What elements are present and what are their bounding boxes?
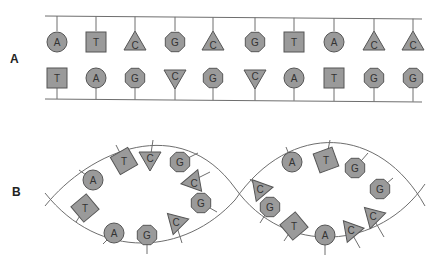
svg-text:T: T	[331, 73, 337, 84]
svg-text:T: T	[291, 221, 297, 232]
svg-text:T: T	[291, 37, 297, 48]
svg-text:G: G	[143, 230, 151, 241]
adenine-base-icon: A	[104, 223, 124, 243]
svg-text:G: G	[266, 202, 274, 213]
thymine-base-icon: T	[313, 147, 339, 173]
svg-text:A: A	[111, 228, 118, 239]
svg-text:C: C	[347, 225, 354, 236]
svg-text:C: C	[146, 153, 153, 164]
guanine-base-icon: G	[203, 68, 222, 87]
svg-text:A: A	[90, 175, 97, 186]
svg-text:T: T	[323, 155, 329, 166]
svg-text:T: T	[54, 73, 60, 84]
svg-text:C: C	[190, 178, 197, 189]
svg-text:C: C	[251, 71, 258, 82]
guanine-base-icon: G	[345, 158, 364, 177]
svg-text:C: C	[131, 40, 138, 51]
guanine-base-icon: G	[125, 68, 144, 87]
thymine-base-icon: T	[47, 68, 67, 88]
svg-text:G: G	[197, 198, 205, 209]
cytosine-base-icon: C	[139, 152, 161, 171]
panel-b-strand-2	[45, 143, 425, 243]
adenine-base-icon: A	[83, 170, 103, 190]
svg-text:A: A	[289, 157, 296, 168]
svg-text:G: G	[409, 73, 417, 84]
cytosine-base-icon: C	[164, 70, 186, 89]
svg-text:A: A	[331, 37, 338, 48]
guanine-base-icon: G	[364, 68, 383, 87]
cytosine-base-icon: C	[244, 70, 266, 89]
guanine-base-icon: G	[165, 32, 184, 51]
cytosine-base-icon: C	[202, 31, 224, 51]
cytosine-base-icon: C	[363, 31, 385, 51]
panel-b: ATTCGCGAGCATGGCGTACC	[45, 140, 425, 255]
svg-text:G: G	[209, 73, 217, 84]
svg-text:G: G	[131, 73, 139, 84]
guanine-base-icon: G	[191, 193, 210, 212]
svg-text:A: A	[322, 230, 329, 241]
svg-text:T: T	[93, 37, 99, 48]
thymine-base-icon: T	[71, 194, 99, 222]
svg-text:C: C	[209, 40, 216, 51]
adenine-base-icon: A	[324, 32, 344, 52]
svg-text:G: G	[251, 37, 259, 48]
guanine-base-icon: G	[403, 68, 422, 87]
svg-text:G: G	[376, 184, 384, 195]
svg-text:G: G	[370, 73, 378, 84]
thymine-base-icon: T	[324, 68, 344, 88]
guanine-base-icon: G	[245, 32, 264, 51]
panel-a-top-backbone	[45, 16, 422, 19]
thymine-base-icon: T	[280, 212, 308, 240]
svg-text:C: C	[172, 217, 179, 228]
panel-b-bases: ATTCGCGAGCATGGCGTACC	[71, 140, 393, 255]
thymine-base-icon: T	[110, 147, 137, 174]
adenine-base-icon: A	[315, 225, 335, 245]
panel-b-strand-1	[45, 145, 425, 237]
panel-a-bottom-backbone	[45, 99, 422, 102]
svg-text:A: A	[291, 73, 298, 84]
svg-text:G: G	[171, 37, 179, 48]
svg-text:C: C	[256, 184, 263, 195]
guanine-base-icon: G	[137, 225, 156, 244]
guanine-base-icon: G	[370, 179, 389, 198]
svg-text:G: G	[176, 157, 184, 168]
svg-text:C: C	[409, 40, 416, 51]
adenine-base-icon: A	[47, 32, 67, 52]
svg-text:G: G	[351, 163, 359, 174]
guanine-base-icon: G	[170, 152, 189, 171]
adenine-base-icon: A	[282, 152, 302, 172]
panel-a: ATCGCGTACCTAGCGCATGG	[45, 16, 424, 102]
cytosine-base-icon: C	[402, 31, 424, 51]
svg-text:T: T	[82, 203, 88, 214]
svg-text:C: C	[171, 71, 178, 82]
svg-text:C: C	[369, 211, 376, 222]
svg-text:A: A	[54, 37, 61, 48]
dna-diagram: ATCGCGTACCTAGCGCATGG ATTCGCGAGCATGGCGTAC…	[0, 0, 437, 264]
svg-text:C: C	[370, 40, 377, 51]
thymine-base-icon: T	[284, 32, 304, 52]
cytosine-base-icon: C	[337, 220, 364, 246]
guanine-base-icon: G	[260, 197, 279, 216]
cytosine-base-icon: C	[124, 31, 146, 51]
thymine-base-icon: T	[86, 32, 106, 52]
adenine-base-icon: A	[86, 68, 106, 88]
cytosine-base-icon: C	[163, 213, 189, 237]
svg-text:T: T	[121, 156, 127, 167]
svg-text:A: A	[93, 73, 100, 84]
panel-a-bases: ATCGCGTACCTAGCGCATGG	[47, 16, 424, 102]
adenine-base-icon: A	[284, 68, 304, 88]
